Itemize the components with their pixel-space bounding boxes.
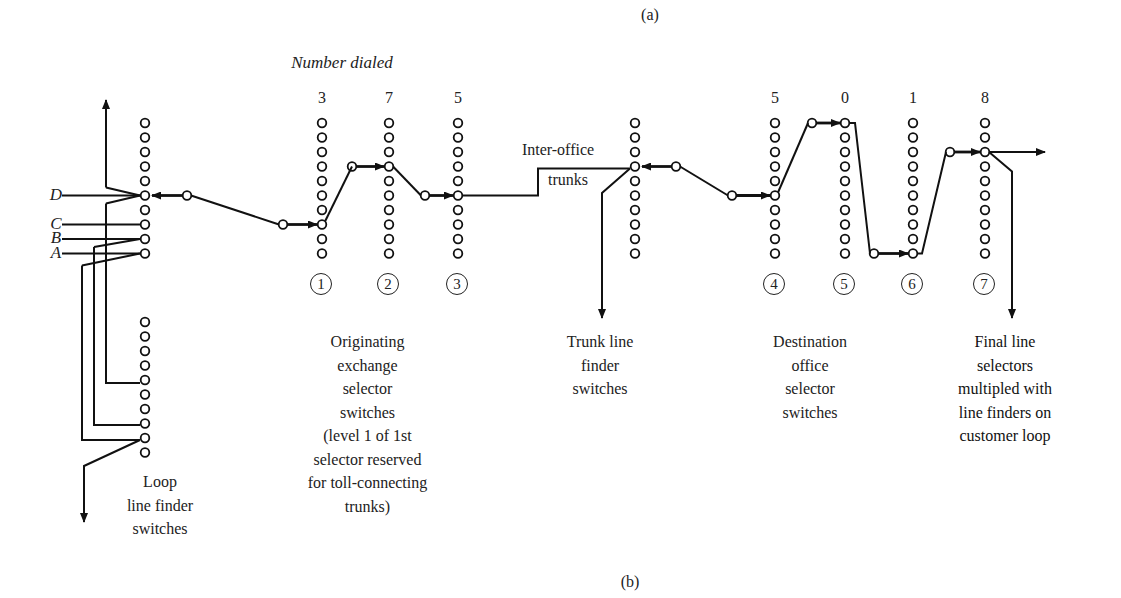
contact-dot <box>909 206 918 215</box>
contact-dot <box>318 206 327 215</box>
wire <box>82 266 140 441</box>
stage-number-circle: 1 <box>310 273 332 295</box>
contact-dot <box>454 220 463 229</box>
contact-dot <box>454 119 463 128</box>
contact-dot <box>141 119 150 128</box>
contact-dot <box>909 235 918 244</box>
trunks-label: trunks <box>538 168 598 192</box>
part-b-label: (b) <box>610 570 650 594</box>
stage-number-circle: 6 <box>901 273 923 295</box>
dialed-digit: 7 <box>379 86 399 110</box>
contact-dot <box>385 220 394 229</box>
contact-dot <box>909 148 918 157</box>
contact-dot <box>909 191 918 200</box>
contact-dot <box>841 235 850 244</box>
contact-dot <box>141 332 150 341</box>
caption-destination-selectors: Destination office selector switches <box>745 330 875 424</box>
contact-dot <box>318 119 327 128</box>
contact-dot <box>385 206 394 215</box>
wire <box>94 247 140 425</box>
contact-dot <box>909 177 918 186</box>
contact-dot <box>841 220 850 229</box>
contact-dot <box>141 361 150 370</box>
contact-dot <box>771 235 780 244</box>
contact-dot <box>631 220 640 229</box>
wire <box>849 123 870 254</box>
contact-dot <box>841 148 850 157</box>
contact-dot <box>672 162 681 171</box>
stage-number-circle: 7 <box>973 273 995 295</box>
contact-dot <box>454 249 463 258</box>
wire <box>917 152 946 254</box>
contact-dot <box>421 191 430 200</box>
contact-dot <box>141 220 150 229</box>
contact-dot <box>318 249 327 258</box>
contact-dot <box>771 148 780 157</box>
contact-dot <box>454 206 463 215</box>
contact-dot <box>981 191 990 200</box>
contact-dot <box>631 119 640 128</box>
inter-office-label: Inter-office <box>503 138 613 162</box>
wire <box>106 188 140 196</box>
wire <box>94 239 140 247</box>
contact-dot <box>841 119 850 128</box>
contact-dot <box>981 162 990 171</box>
stage-number-circle: 4 <box>763 273 785 295</box>
wire <box>191 196 279 225</box>
contact-dot <box>841 162 850 171</box>
contact-dot <box>841 191 850 200</box>
contact-dot <box>141 347 150 356</box>
dialed-digit: 8 <box>975 86 995 110</box>
contact-dot <box>454 133 463 142</box>
contact-dot <box>728 191 737 200</box>
contact-dot <box>841 206 850 215</box>
contact-dot <box>771 133 780 142</box>
line-label-a: A <box>48 241 64 265</box>
contact-dot <box>841 249 850 258</box>
dialed-digit: 5 <box>765 86 785 110</box>
contact-dot <box>841 177 850 186</box>
wire <box>325 167 352 222</box>
contact-dot <box>909 119 918 128</box>
contact-dot <box>183 191 192 200</box>
contact-dot <box>141 133 150 142</box>
contact-dot <box>141 249 150 258</box>
stage-number-circle: 2 <box>377 273 399 295</box>
caption-loop-line-finder: Loop line finder switches <box>90 470 230 541</box>
contact-dot <box>385 162 394 171</box>
contact-dot <box>141 376 150 385</box>
contact-dot <box>981 235 990 244</box>
contact-dot <box>385 177 394 186</box>
contact-dot <box>909 162 918 171</box>
contact-dot <box>318 162 327 171</box>
contact-dot <box>318 177 327 186</box>
wire <box>106 196 140 204</box>
contact-dot <box>771 220 780 229</box>
contact-dot <box>141 206 150 215</box>
contact-dot <box>385 119 394 128</box>
contact-dot <box>909 249 918 258</box>
contact-dot <box>141 318 150 327</box>
contact-dot <box>454 177 463 186</box>
caption-originating-selectors: Originating exchange selector switches (… <box>300 330 435 518</box>
wire <box>82 254 140 266</box>
dialed-digit: 5 <box>448 86 468 110</box>
line-label-d: D <box>48 183 64 207</box>
contact-dot <box>981 177 990 186</box>
contact-dot <box>141 434 150 443</box>
contact-dot <box>981 133 990 142</box>
contact-dot <box>385 148 394 157</box>
stage-number-circle: 3 <box>446 273 468 295</box>
contact-dot <box>946 148 955 157</box>
part-a-label: (a) <box>630 3 670 27</box>
dialed-digit: 1 <box>903 86 923 110</box>
contact-dot <box>631 148 640 157</box>
contact-dot <box>279 220 288 229</box>
contact-dot <box>141 405 150 414</box>
contact-dot <box>141 177 150 186</box>
contact-dot <box>454 235 463 244</box>
wire <box>778 123 808 193</box>
contact-dot <box>631 235 640 244</box>
contact-dot <box>318 235 327 244</box>
contact-dot <box>141 148 150 157</box>
